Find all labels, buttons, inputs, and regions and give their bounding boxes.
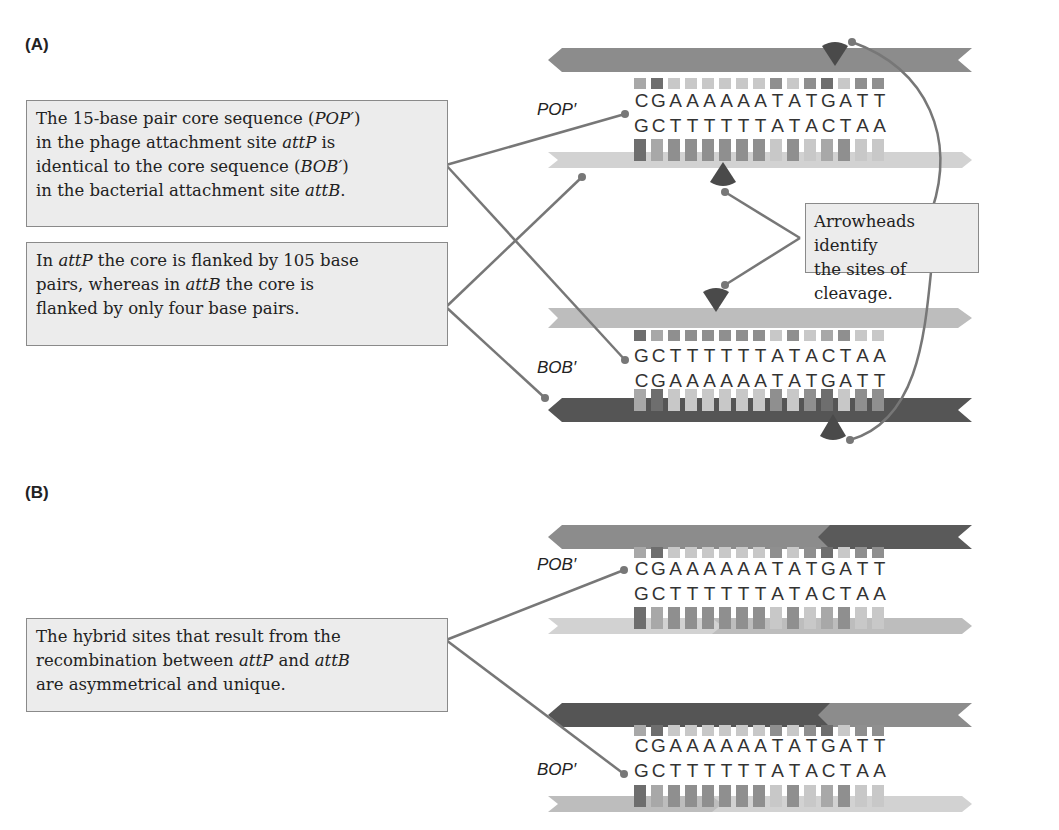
base-letter: A xyxy=(735,735,752,757)
base-pair-tick xyxy=(736,389,748,411)
base-letter: T xyxy=(735,345,752,367)
base-letter: T xyxy=(701,583,718,605)
base-letter: T xyxy=(854,370,871,392)
base-letter: A xyxy=(701,370,718,392)
base-pair-tick xyxy=(702,330,714,341)
base-letter: G xyxy=(650,558,667,580)
base-letter: G xyxy=(820,370,837,392)
base-pair-tick xyxy=(736,78,748,89)
base-pair-tick xyxy=(838,389,850,411)
base-letter: T xyxy=(769,370,786,392)
base-letter: G xyxy=(633,115,650,137)
strand-bob-top xyxy=(548,308,972,328)
base-pair-tick xyxy=(736,547,748,558)
sequence-pop-bottom: GCTTTTTTATACTAA xyxy=(633,115,888,137)
base-letter: A xyxy=(837,735,854,757)
base-letter: T xyxy=(837,583,854,605)
base-pair-tick xyxy=(855,139,867,161)
base-pair-tick xyxy=(753,330,765,341)
base-letter: T xyxy=(701,345,718,367)
base-pair-tick xyxy=(753,139,765,161)
callout-text: attB xyxy=(315,651,350,670)
base-pair-tick xyxy=(719,785,731,807)
base-letter: A xyxy=(718,558,735,580)
base-letter: T xyxy=(752,760,769,782)
base-letter: T xyxy=(718,583,735,605)
base-letter: A xyxy=(769,760,786,782)
base-pair-tick xyxy=(821,78,833,89)
base-letter: A xyxy=(786,90,803,112)
base-pair-tick xyxy=(736,139,748,161)
base-letter: A xyxy=(667,370,684,392)
site-label-pob: POB′ xyxy=(537,555,576,575)
base-letter: C xyxy=(633,370,650,392)
base-pair-tick xyxy=(753,389,765,411)
base-pair-tick xyxy=(872,389,884,411)
base-letter: C xyxy=(650,583,667,605)
base-pair-tick xyxy=(753,785,765,807)
base-pair-tick xyxy=(668,139,680,161)
strand-pop-top xyxy=(548,48,972,72)
base-pair-tick xyxy=(787,139,799,161)
base-letter: A xyxy=(803,345,820,367)
base-pair-tick xyxy=(651,547,663,558)
callout-flanking: In attP the core is flanked by 105 base … xyxy=(26,242,448,346)
base-letter: G xyxy=(633,583,650,605)
base-pair-tick xyxy=(651,607,663,629)
base-letter: A xyxy=(684,558,701,580)
base-letter: C xyxy=(650,115,667,137)
base-letter: A xyxy=(752,90,769,112)
base-pair-tick xyxy=(753,607,765,629)
base-letter: T xyxy=(667,760,684,782)
base-pair-tick xyxy=(804,330,816,341)
base-pair-tick xyxy=(651,330,663,341)
base-letter: T xyxy=(803,558,820,580)
callout-text: is xyxy=(316,133,335,152)
base-letter: A xyxy=(735,370,752,392)
callout-text: identical to the core sequence ( xyxy=(36,157,300,176)
base-pair-tick xyxy=(719,78,731,89)
sequence-bop-bottom: GCTTTTTTATACTAA xyxy=(633,760,888,782)
site-label-pop: POP′ xyxy=(537,100,576,120)
base-pair-tick xyxy=(770,389,782,411)
base-pair-tick xyxy=(872,139,884,161)
base-letter: A xyxy=(701,735,718,757)
base-letter: A xyxy=(735,558,752,580)
base-letter: T xyxy=(718,760,735,782)
base-letter: A xyxy=(786,735,803,757)
base-letter: T xyxy=(854,558,871,580)
base-letter: T xyxy=(701,115,718,137)
callout-text: The 15-base pair core sequence ( xyxy=(36,109,314,128)
base-pair-tick xyxy=(685,139,697,161)
base-pair-tick xyxy=(872,785,884,807)
base-pair-tick xyxy=(855,607,867,629)
base-pair-tick xyxy=(668,330,680,341)
base-letter: A xyxy=(752,735,769,757)
callout-text: BOB′ xyxy=(300,157,342,176)
sequence-pop-top: CGAAAAAATATGATT xyxy=(633,90,888,112)
base-pair-tick xyxy=(855,389,867,411)
base-pair-tick xyxy=(702,389,714,411)
base-letter: A xyxy=(803,115,820,137)
base-pair-tick xyxy=(634,389,646,411)
base-letter: C xyxy=(633,735,650,757)
base-pair-tick xyxy=(634,785,646,807)
callout-text: in the bacterial attachment site xyxy=(36,181,305,200)
sequence-bop-top: CGAAAAAATATGATT xyxy=(633,735,888,757)
base-pair-tick xyxy=(634,139,646,161)
base-pair-tick xyxy=(821,785,833,807)
base-pair-tick xyxy=(702,139,714,161)
base-letter: A xyxy=(718,90,735,112)
base-letter: G xyxy=(633,760,650,782)
base-letter: T xyxy=(684,115,701,137)
base-pair-tick xyxy=(787,547,799,558)
strand-pob-top xyxy=(548,525,972,549)
base-pair-tick xyxy=(634,547,646,558)
base-pair-tick xyxy=(770,330,782,341)
base-letter: T xyxy=(684,760,701,782)
base-pair-tick xyxy=(821,389,833,411)
base-letter: A xyxy=(837,370,854,392)
base-letter: A xyxy=(854,760,871,782)
base-letter: T xyxy=(786,345,803,367)
base-letter: A xyxy=(684,370,701,392)
